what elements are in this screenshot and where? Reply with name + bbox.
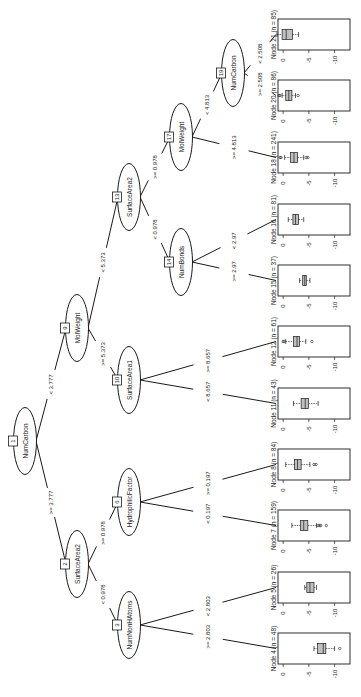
node-variable-label: MolWeight: [74, 313, 82, 344]
iqr-box: [301, 521, 308, 531]
axis-tick-label: -10: [332, 608, 338, 617]
leaf-title: Node 11 (n = 43): [270, 379, 278, 427]
axis-tick-label: -10: [332, 669, 338, 678]
node-variable-label: SurfaceArea1: [126, 360, 133, 400]
iqr-box: [301, 399, 308, 409]
node-variable-label: NumBonds: [178, 245, 185, 278]
node-variable-label: NumCarbon: [22, 423, 29, 458]
leaf-node-4: Node 4 (n = 48)0-5-10: [270, 626, 350, 679]
edge-6-7: [223, 516, 276, 525]
leaf-title: Node 5 (n = 26): [270, 565, 278, 610]
iqr-box: [282, 30, 292, 40]
leaf-node-5: Node 5 (n = 26)0-5-10: [270, 565, 350, 618]
leaf-title: Node 7 (n = 159): [270, 501, 278, 550]
inner-node-10: 10SurfaceArea1: [113, 347, 141, 414]
leaf-panels-layer: Node 21 (n = 85)0-5-10Node 20 (n = 86)0-…: [270, 10, 350, 678]
inner-node-9: 9MolWeight: [61, 295, 89, 362]
leaf-node-21: Node 21 (n = 85)0-5-10: [270, 10, 350, 64]
edge-2-3: [88, 564, 96, 581]
axis-tick-label: 0: [280, 58, 286, 62]
leaf-node-12: Node 12 (n = 61)0-5-10: [270, 317, 350, 371]
axis-tick-label: 0: [280, 243, 286, 247]
edge-6-8: [222, 465, 276, 480]
edge-17-18: [192, 137, 219, 144]
edge-split-label: >= 2.97: [231, 260, 237, 281]
edge-1-2: [36, 441, 47, 488]
axis-tick-label: -10: [332, 424, 338, 433]
axis-tick-label: -5: [306, 242, 312, 248]
edge-3-5: [222, 588, 276, 603]
node-id: 13: [114, 193, 120, 200]
tree-diagram: < 3.777>= 3.777< 0.978>= 0.978>= 2.803< …: [0, 0, 361, 697]
edge-split-label: >= 5.373: [100, 341, 106, 365]
edge-split-label: >= 0.978: [100, 520, 106, 544]
leaf-title: Node 15 (n = 37): [270, 256, 278, 305]
axis-tick-label: 0: [280, 611, 286, 615]
edge-9-13: [88, 277, 100, 328]
node-variable-label: MolWeight: [178, 122, 186, 153]
edge-split-label: < 5.373: [100, 252, 106, 273]
leaf-node-18: Node 18 (n = 241)0-5-10: [270, 131, 350, 187]
edge-10-11: [223, 394, 276, 403]
edge-13-14: [140, 197, 149, 216]
node-id: 14: [166, 258, 172, 265]
axis-tick-label: 0: [280, 181, 286, 185]
edge-split-label: >= 8.657: [205, 348, 211, 372]
leaf-title: Node 20 (n = 86): [270, 71, 278, 120]
edge-10-12: [140, 365, 194, 380]
edge-split-label: < 2.803: [205, 595, 211, 616]
edge-17-19: [192, 119, 201, 137]
axis-tick-label: -5: [306, 487, 312, 493]
leaf-node-20: Node 20 (n = 86)0-5-10: [270, 71, 350, 125]
inner-node-14: 14NumBonds: [165, 229, 193, 296]
axis-tick-label: -5: [306, 548, 312, 554]
edge-3-5: [140, 610, 194, 625]
edge-split-label: >= 2.508: [257, 72, 263, 96]
edge-split-label: < 0.978: [100, 584, 106, 605]
edge-split-label: < 2.97: [231, 232, 237, 250]
axis-tick-label: 0: [280, 488, 286, 492]
axis-tick-label: -10: [332, 240, 338, 249]
axis-tick-label: -10: [332, 55, 338, 64]
node-variable-label: SurfaceArea2: [126, 177, 133, 217]
edge-13-17: [140, 180, 148, 197]
leaf-node-8: Node 8 (n = 84)0-5-10: [270, 442, 350, 495]
axis-tick-label: -5: [306, 118, 312, 124]
edge-split-label: >= 0.978: [152, 154, 158, 178]
edge-10-12: [222, 342, 276, 357]
edge-1-2: [55, 517, 66, 564]
node-variable-label: NumNonHAtoms: [126, 600, 133, 650]
edge-split-label: < 4.813: [204, 94, 210, 115]
edge-6-8: [140, 487, 194, 502]
axis-tick-label: -10: [332, 178, 338, 187]
inner-node-3: 3NumNonHAtoms: [113, 592, 141, 659]
axis-tick-label: -5: [306, 57, 312, 63]
leaf-title: Node 18 (n = 241): [270, 131, 278, 184]
axis-tick-label: 0: [280, 672, 286, 676]
edge-split-label: >= 3.777: [48, 490, 54, 514]
edge-split-label: < 8.657: [205, 381, 211, 402]
edge-split-label: >= 2.803: [205, 624, 211, 648]
leaf-title: Node 8 (n = 84): [270, 442, 278, 487]
inner-node-2: 2SurfaceArea2: [61, 531, 89, 598]
iqr-box: [318, 644, 326, 654]
axis-tick-label: 0: [280, 304, 286, 308]
edge-3-4: [223, 639, 276, 648]
edge-split-label: < 3.777: [48, 374, 54, 395]
inner-node-6: 6HydrophilicFactor: [113, 469, 141, 536]
axis-tick-label: 0: [280, 365, 286, 369]
edge-9-10: [88, 328, 96, 341]
edge-2-6: [88, 547, 96, 564]
edge-14-15: [192, 262, 219, 268]
inner-node-13: 13SurfaceArea2: [113, 164, 141, 231]
inner-node-17: 17MolWeight: [165, 104, 193, 171]
axis-tick-label: -10: [332, 362, 338, 371]
axis-tick-label: -5: [306, 426, 312, 432]
leaf-title: Node 12 (n = 61): [270, 317, 278, 366]
leaf-node-11: Node 11 (n = 43)0-5-10: [270, 379, 350, 433]
leaf-node-16: Node 16 (n = 81)0-5-10: [270, 195, 350, 249]
edge-split-label: < 2.508: [257, 43, 263, 64]
axis-tick-label: 0: [280, 119, 286, 123]
axis-tick-label: -10: [332, 116, 338, 125]
iqr-box: [307, 583, 314, 593]
